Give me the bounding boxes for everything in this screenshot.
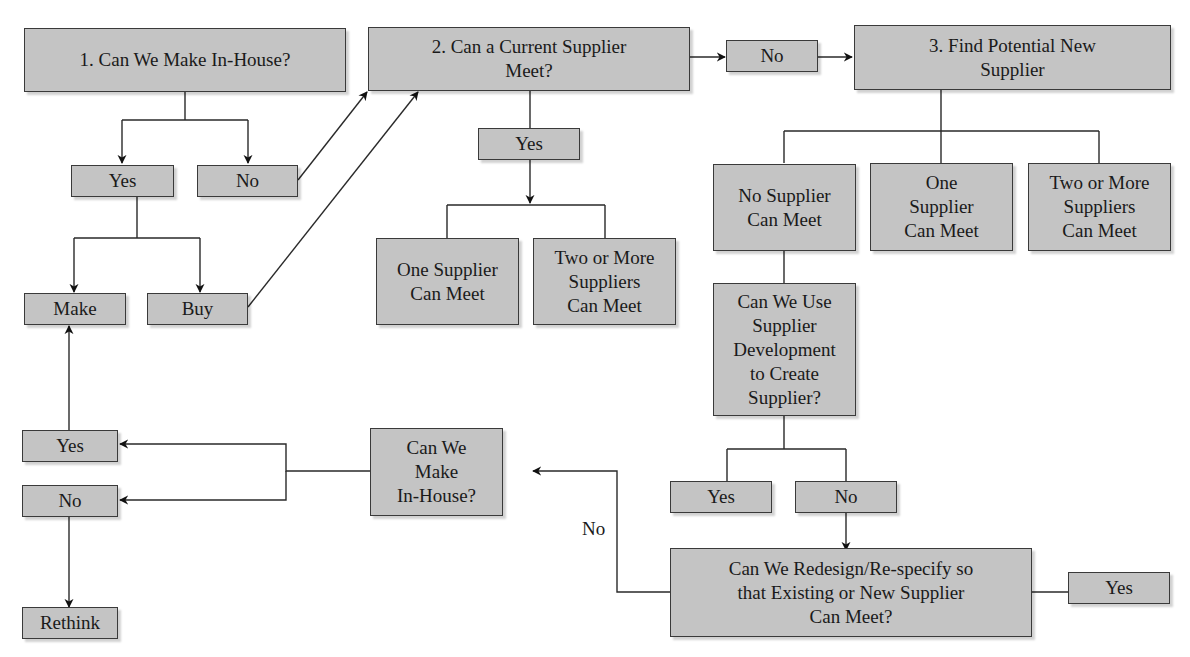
node-rethink: Rethink [22,607,118,639]
edge-no-to-q2 [298,92,367,180]
node-inhouse2-no: No [22,485,118,517]
node-one-supplier-can-meet-q2: One Supplier Can Meet [376,238,519,325]
edge-inhouse2-yes [120,444,370,471]
node-two-or-more-suppliers-q2: Two or More Suppliers Can Meet [533,238,676,325]
node-can-we-use-supplier-development: Can We Use Supplier Development to Creat… [713,283,856,416]
node-q1-no: No [197,165,298,197]
node-q2-no: No [726,40,818,72]
node-dev-no: No [795,481,897,513]
node-one-supplier-can-meet-q3: One Supplier Can Meet [870,163,1013,251]
node-inhouse2-yes: Yes [22,430,118,462]
node-dev-yes: Yes [670,481,772,513]
node-redesign-yes: Yes [1068,572,1170,604]
node-can-current-supplier-meet: 2. Can a Current Supplier Meet? [368,27,690,91]
node-no-supplier-can-meet: No Supplier Can Meet [713,164,856,251]
node-make: Make [24,293,126,325]
node-two-or-more-suppliers-q3: Two or More Suppliers Can Meet [1028,163,1171,251]
node-can-we-redesign-respecify: Can We Redesign/Re-specify so that Exist… [670,548,1032,637]
node-find-potential-new-supplier: 3. Find Potential New Supplier [854,25,1171,90]
edge-label-redesign-no: No [582,518,605,540]
node-q2-yes: Yes [478,128,580,160]
node-buy: Buy [147,293,248,325]
node-can-we-make-in-house-2: Can We Make In-House? [370,428,503,516]
edge-inhouse2-no [120,471,286,500]
node-q1-yes: Yes [71,165,174,197]
node-can-we-make-in-house: 1. Can We Make In-House? [24,28,346,92]
